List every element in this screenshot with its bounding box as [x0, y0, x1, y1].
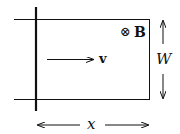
field-into-page-icon: ⊗	[120, 25, 131, 38]
length-label: x	[87, 117, 95, 132]
field-label: B	[134, 25, 146, 39]
width-label: W	[156, 52, 171, 67]
velocity-label: v	[99, 52, 107, 65]
diagram-canvas	[0, 0, 180, 134]
